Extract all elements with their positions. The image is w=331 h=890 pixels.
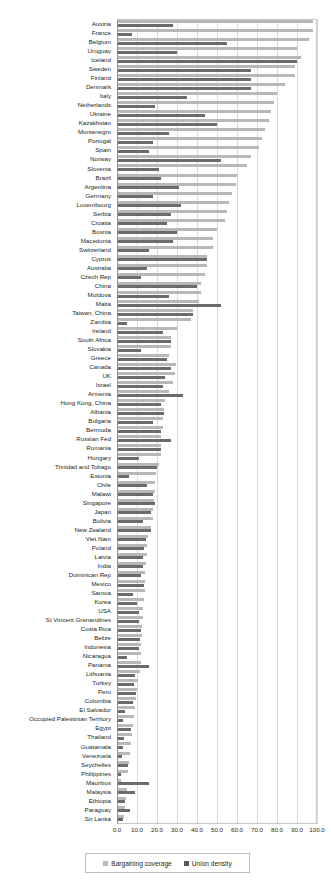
bar-row — [117, 642, 317, 651]
bar-union-density — [117, 692, 136, 695]
bar-row — [117, 696, 317, 705]
bar-row — [117, 281, 317, 290]
bar-row — [117, 173, 317, 182]
bar-union-density — [117, 782, 149, 785]
category-label: Seychelles — [0, 760, 114, 769]
bar-bargaining-coverage — [117, 74, 295, 77]
bar-union-density — [117, 773, 121, 776]
category-label: Panama — [0, 660, 114, 669]
bar-bargaining-coverage — [117, 616, 143, 619]
category-label: Romania — [0, 443, 114, 452]
bar-row — [117, 687, 317, 696]
bar-union-density — [117, 186, 179, 189]
bar-row — [117, 218, 317, 227]
category-label: Korea — [0, 597, 114, 606]
legend-swatch-icon — [184, 861, 189, 866]
bar-bargaining-coverage — [117, 752, 130, 755]
category-label: Argentina — [0, 182, 114, 191]
bar-row — [117, 453, 317, 462]
category-label: Croatia — [0, 218, 114, 227]
category-label: Zambia — [0, 317, 114, 326]
category-label: Mauritius — [0, 778, 114, 787]
bar-union-density — [117, 177, 161, 180]
bar-bargaining-coverage — [117, 146, 259, 149]
bar-union-density — [117, 629, 141, 632]
bar-union-density — [117, 638, 140, 641]
category-label: St Vincent Grenandines — [0, 615, 114, 624]
bar-union-density — [117, 195, 153, 198]
bar-bargaining-coverage — [117, 806, 125, 809]
category-label: Nicaragua — [0, 651, 114, 660]
bar-bargaining-coverage — [117, 553, 147, 556]
x-axis-tick-labels: 0.010.020.030.040.050.060.070.080.090.01… — [117, 826, 317, 838]
bar-row — [117, 100, 317, 109]
bar-bargaining-coverage — [117, 318, 191, 321]
bar-bargaining-coverage — [117, 336, 171, 339]
bar-union-density — [117, 394, 183, 397]
category-label: Japan — [0, 507, 114, 516]
category-label: Switzerland — [0, 245, 114, 254]
category-label: Malta — [0, 299, 114, 308]
bar-bargaining-coverage — [117, 291, 201, 294]
bar-row — [117, 507, 317, 516]
bar-union-density — [117, 114, 205, 117]
bar-union-density — [117, 204, 181, 207]
bar-bargaining-coverage — [117, 56, 301, 59]
category-label: Canada — [0, 362, 114, 371]
bar-row — [117, 552, 317, 561]
bar-union-density — [117, 376, 165, 379]
bar-row — [117, 471, 317, 480]
bar-bargaining-coverage — [117, 399, 165, 402]
category-label: Estonia — [0, 471, 114, 480]
category-label: Taiwan, China — [0, 308, 114, 317]
bar-bargaining-coverage — [117, 137, 262, 140]
bar-union-density — [117, 141, 153, 144]
bar-row — [117, 615, 317, 624]
category-label: Malaysia — [0, 787, 114, 796]
bar-bargaining-coverage — [117, 228, 217, 231]
bar-row — [117, 570, 317, 579]
bar-row — [117, 380, 317, 389]
bar-bargaining-coverage — [117, 634, 142, 637]
bar-bargaining-coverage — [117, 110, 271, 113]
bar-union-density — [117, 105, 155, 108]
bar-row — [117, 317, 317, 326]
category-label: Iceland — [0, 55, 114, 64]
x-axis-tick-label: 10.0 — [131, 826, 143, 833]
bar-bargaining-coverage — [117, 715, 134, 718]
bar-bargaining-coverage — [117, 38, 309, 41]
bar-row — [117, 245, 317, 254]
bar-row — [117, 37, 317, 46]
bar-union-density — [117, 701, 133, 704]
category-label: Samoa — [0, 588, 114, 597]
bar-bargaining-coverage — [117, 246, 213, 249]
category-label: Mexico — [0, 579, 114, 588]
bar-union-density — [117, 457, 139, 460]
category-label: Bulgaria — [0, 416, 114, 425]
legend-swatch-icon — [103, 861, 108, 866]
bar-union-density — [117, 800, 125, 803]
bar-bargaining-coverage — [117, 47, 297, 50]
bar-bargaining-coverage — [117, 481, 155, 484]
bar-row — [117, 805, 317, 814]
category-label: Thailand — [0, 732, 114, 741]
category-label: Peru — [0, 687, 114, 696]
legend-label: Union density — [192, 860, 232, 867]
bar-row — [117, 525, 317, 534]
bar-row — [117, 778, 317, 787]
bar-bargaining-coverage — [117, 417, 163, 420]
category-label: Sri Lanka — [0, 814, 114, 823]
category-label: Colombia — [0, 696, 114, 705]
bar-row — [117, 46, 317, 55]
bar-union-density — [117, 33, 132, 36]
bar-bargaining-coverage — [117, 770, 128, 773]
category-label: Israel — [0, 380, 114, 389]
category-label: Paraguay — [0, 805, 114, 814]
category-label: Austria — [0, 19, 114, 28]
bar-row — [117, 136, 317, 145]
bar-row — [117, 633, 317, 642]
bar-union-density — [117, 710, 125, 713]
bar-row — [117, 678, 317, 687]
bar-row — [117, 145, 317, 154]
bar-bargaining-coverage — [117, 119, 269, 122]
